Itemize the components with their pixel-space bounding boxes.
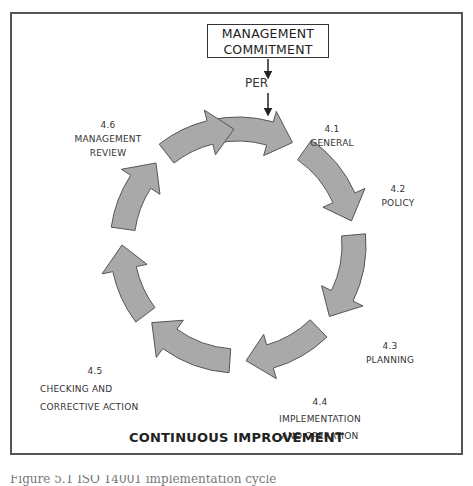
stage-title-line2: CORRECTIVE ACTION — [40, 398, 150, 416]
curved-arrow-icon — [298, 140, 365, 221]
stage-title-line2: REVIEW — [60, 146, 156, 160]
stage-number: 4.6 — [60, 118, 156, 132]
stage-4-3-label: 4.3 PLANNING — [350, 339, 430, 367]
curved-arrow-icon — [102, 245, 155, 322]
stage-title: CHECKING AND — [40, 380, 150, 398]
stage-4-2-label: 4.2 POLICY — [368, 182, 428, 210]
stage-4-1-label: 4.1 GENERAL — [297, 122, 367, 150]
per-label: PER — [245, 76, 268, 90]
stage-number: 4.2 — [368, 182, 428, 196]
curved-arrow-icon — [152, 320, 231, 372]
stage-title: MANAGEMENT — [60, 132, 156, 146]
curved-arrow-icon — [246, 320, 327, 379]
stage-title: IMPLEMENTATION — [265, 411, 375, 428]
stage-number: 4.1 — [297, 122, 367, 136]
continuous-improvement-title: CONTINUOUS IMPROVEMENT — [0, 430, 473, 445]
stage-title: PLANNING — [350, 353, 430, 367]
curved-arrow-icon — [322, 234, 366, 317]
stage-number: 4.3 — [350, 339, 430, 353]
stage-4-6-label: 4.6 MANAGEMENT REVIEW — [60, 118, 156, 160]
stage-number: 4.5 — [40, 362, 150, 380]
stage-title: GENERAL — [297, 136, 367, 150]
stage-number: 4.4 — [265, 394, 375, 411]
stage-4-5-label: 4.5 CHECKING AND CORRECTIVE ACTION — [40, 362, 150, 416]
stage-title: POLICY — [368, 196, 428, 210]
curved-arrow-icon — [111, 163, 160, 231]
